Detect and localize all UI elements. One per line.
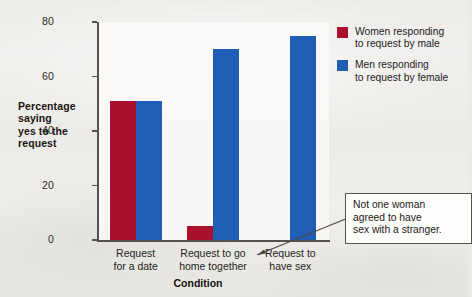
x-label-group-2: Request to gohome together [174,247,251,272]
callout-annotation: Not one woman agreed to have sex with a … [345,193,472,244]
x-label-group-1-line-2: for a date [97,260,174,273]
legend-label-men-line-2: to request by female [355,72,448,84]
callout-line-3: sex with a stranger. [353,224,465,237]
y-axis-title-line-4: request [18,137,96,149]
x-axis-title: Condition [0,277,468,289]
y-tick-label-0: 0 [14,233,54,245]
x-label-group-2-line-1: Request to go [174,247,251,260]
y-tick-20 [92,185,97,187]
legend-label-women: Women responding to request by male [355,26,444,50]
legend-label-men-line-1: Men responding [355,59,448,71]
bar-women-group-1 [110,101,136,240]
chart-legend: Women responding to request by male Men … [337,26,465,93]
y-axis-title-line-3: yes to the [18,125,96,137]
bar-men-group-1 [136,101,162,240]
y-tick-label-60: 60 [14,70,54,82]
legend-label-women-line-1: Women responding [355,26,444,38]
y-axis-line [97,22,99,241]
x-label-group-1-line-1: Request [97,247,174,260]
bar-men-group-2 [213,49,239,240]
y-tick-label-80: 80 [14,15,54,27]
legend-swatch-men [337,60,348,71]
legend-item-men: Men responding to request by female [337,59,465,83]
x-label-group-1: Requestfor a date [97,247,174,272]
legend-swatch-women [337,27,348,38]
legend-label-women-line-2: to request by male [355,38,444,50]
bar-men-group-3 [290,36,316,240]
legend-item-women: Women responding to request by male [337,26,465,50]
callout-line-1: Not one woman [353,199,465,212]
y-tick-label-20: 20 [14,179,54,191]
legend-label-men: Men responding to request by female [355,59,448,83]
bar-women-group-2 [187,226,213,240]
y-tick-60 [92,76,97,78]
callout-leader-line [255,215,350,257]
y-axis-title-line-1: Percentage [18,100,96,112]
x-axis-title-text: Condition [174,277,223,289]
y-tick-0 [92,239,97,241]
x-label-group-2-line-2: home together [174,260,251,273]
y-tick-80 [92,21,97,23]
y-axis-title-line-2: saying [18,112,96,124]
callout-line-2: agreed to have [353,212,465,225]
y-axis-title: Percentage saying yes to the request [18,100,96,150]
x-label-group-3-line-2: have sex [252,260,329,273]
